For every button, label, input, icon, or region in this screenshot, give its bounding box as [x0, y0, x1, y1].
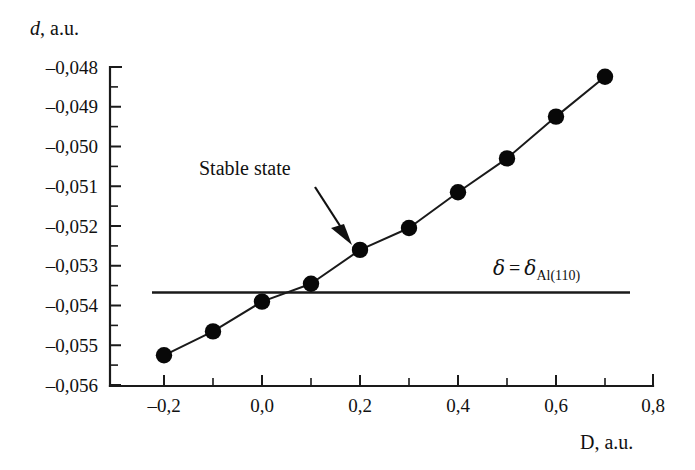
x-tick-label: –0,2: [124, 396, 204, 415]
data-point: [205, 323, 221, 339]
data-point: [401, 220, 417, 236]
x-minor-ticks: [213, 378, 605, 386]
y-axis-title-symbol: d: [30, 17, 40, 39]
data-point: [548, 108, 564, 124]
data-point: [303, 276, 319, 292]
data-point: [254, 293, 270, 309]
y-tick-label: –0,053: [12, 256, 98, 275]
y-axis-title-units: , a.u.: [40, 17, 79, 39]
x-tick-label: 0,2: [320, 396, 400, 415]
x-tick-label: 0,0: [222, 396, 302, 415]
x-axis-title: D, a.u.: [580, 432, 633, 452]
data-series-line: [164, 77, 605, 356]
y-tick-label: –0,049: [12, 97, 98, 116]
stable-state-arrow-icon: [315, 187, 352, 245]
data-point: [597, 69, 613, 85]
y-tick-label: –0,050: [12, 137, 98, 156]
y-tick-label: –0,048: [12, 58, 98, 77]
data-point: [450, 184, 466, 200]
delta-equals-sign: =: [505, 257, 524, 279]
data-point: [156, 347, 172, 363]
stable-state-annotation: Stable state: [199, 158, 291, 178]
delta-rhs-symbol: δ: [524, 256, 536, 280]
y-tick-label: –0,051: [12, 177, 98, 196]
y-tick-label: –0,056: [12, 376, 98, 395]
y-tick-label: –0,054: [12, 296, 98, 315]
y-tick-label: –0,055: [12, 336, 98, 355]
data-markers: [156, 69, 613, 364]
chart-figure: –0,048 –0,049 –0,050 –0,051 –0,052 –0,05…: [0, 0, 695, 470]
x-tick-label: 0,6: [516, 396, 596, 415]
delta-reference-annotation: δ=δAl(110): [493, 258, 580, 283]
x-tick-label: 0,8: [613, 396, 693, 415]
delta-rhs-subscript: Al(110): [536, 268, 580, 283]
data-point: [499, 150, 515, 166]
x-tick-label: 0,4: [418, 396, 498, 415]
y-tick-label: –0,052: [12, 217, 98, 236]
y-axis-title: d, a.u.: [30, 18, 79, 38]
delta-lhs-symbol: δ: [493, 256, 505, 280]
y-major-ticks: [110, 67, 121, 385]
data-point: [352, 242, 368, 258]
